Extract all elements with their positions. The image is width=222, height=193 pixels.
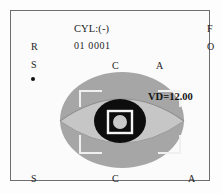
top-axis-label-a: A	[156, 61, 163, 71]
reading-id-label: 01 0001	[74, 41, 111, 51]
eye-side-label-r: R	[31, 42, 38, 52]
eye-side-label-s: S	[31, 60, 37, 70]
mode-indicator-f: F	[207, 24, 213, 34]
bottom-axis-label-c: C	[112, 174, 119, 184]
bottom-axis-label-s: S	[31, 174, 37, 184]
mode-indicator-o: O	[207, 42, 214, 52]
active-indicator-dot	[31, 77, 35, 81]
cylinder-mode-label: CYL:(-)	[74, 24, 109, 35]
eye-alignment-graphic[interactable]	[58, 71, 186, 169]
display-frame: CYL:(-) 01 0001 F O R S C A VD=12.00 S C…	[10, 10, 210, 181]
bottom-axis-label-a: A	[188, 174, 195, 184]
top-axis-label-c: C	[112, 61, 119, 71]
instrument-screen: CYL:(-) 01 0001 F O R S C A VD=12.00 S C…	[0, 0, 222, 193]
vertex-distance-readout: VD=12.00	[148, 92, 193, 103]
pupil-center-highlight	[113, 115, 127, 129]
